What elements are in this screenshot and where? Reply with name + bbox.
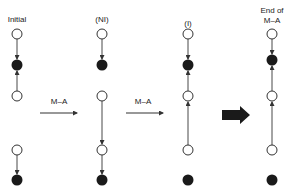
filled-node — [267, 55, 278, 66]
open-node — [97, 29, 107, 39]
diagram-canvas — [0, 0, 291, 193]
open-node — [12, 145, 22, 155]
open-node — [267, 145, 277, 155]
column-ni — [97, 29, 108, 186]
open-node — [12, 29, 22, 39]
filled-node — [267, 175, 278, 186]
open-node — [97, 91, 107, 101]
filled-node — [97, 175, 108, 186]
open-node — [267, 29, 277, 39]
open-node — [183, 29, 193, 39]
column-initial — [12, 29, 23, 186]
open-node — [97, 145, 107, 155]
filled-node — [183, 60, 194, 71]
filled-node — [12, 60, 23, 71]
open-node — [267, 91, 277, 101]
filled-node — [97, 60, 108, 71]
open-node — [183, 145, 193, 155]
column-end — [267, 29, 278, 186]
block-arrow-icon — [222, 106, 250, 124]
open-node — [12, 91, 22, 101]
filled-node — [12, 175, 23, 186]
open-node — [183, 91, 193, 101]
column-i — [183, 29, 194, 186]
filled-node — [183, 175, 194, 186]
